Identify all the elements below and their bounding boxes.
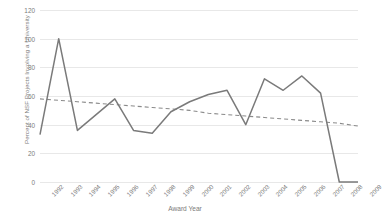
plot-area: 020406080100120 bbox=[40, 10, 358, 182]
y-axis-tick-label: 80 bbox=[0, 64, 35, 71]
x-axis-tick-label: 2009 bbox=[368, 183, 383, 198]
x-axis-tick-label: 2005 bbox=[293, 183, 308, 198]
x-axis-tick-label: 1994 bbox=[87, 183, 102, 198]
y-axis-tick-label: 100 bbox=[0, 35, 35, 42]
x-axis-tick-label: 1997 bbox=[144, 183, 159, 198]
x-axis-tick-label: 2003 bbox=[256, 183, 271, 198]
x-axis-tick-label: 2004 bbox=[275, 183, 290, 198]
x-axis-tick-labels: 1992199319941995199619971998199920002001… bbox=[40, 183, 358, 207]
y-axis-tick-label: 60 bbox=[0, 93, 35, 100]
y-axis-title: Percent of NSF Projects Involving a Univ… bbox=[23, 0, 30, 160]
y-axis-tick-label: 40 bbox=[0, 121, 35, 128]
y-axis-tick-label: 120 bbox=[0, 7, 35, 14]
x-axis-tick-label: 2002 bbox=[237, 183, 252, 198]
x-axis-tick-label: 1995 bbox=[106, 183, 121, 198]
x-axis-tick-label: 1993 bbox=[69, 183, 84, 198]
y-axis-tick-label: 20 bbox=[0, 150, 35, 157]
x-axis-tick-label: 2007 bbox=[331, 183, 346, 198]
x-axis-tick-label: 2000 bbox=[200, 183, 215, 198]
y-axis-tick-label: 0 bbox=[0, 179, 35, 186]
x-axis-tick-label: 1996 bbox=[125, 183, 140, 198]
x-axis-tick-label: 1992 bbox=[50, 183, 65, 198]
x-axis-tick-label: 2006 bbox=[312, 183, 327, 198]
x-axis-tick-label: 2008 bbox=[349, 183, 364, 198]
x-axis-tick-label: 1999 bbox=[181, 183, 196, 198]
x-axis-tick-label: 2001 bbox=[218, 183, 233, 198]
x-axis-title: Award Year bbox=[0, 205, 370, 212]
data-series-line bbox=[40, 10, 358, 182]
x-axis-tick-label: 1998 bbox=[162, 183, 177, 198]
